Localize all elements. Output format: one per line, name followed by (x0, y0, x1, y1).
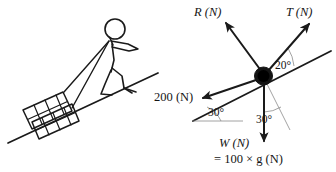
label-200N-text: 200 (N) (154, 90, 193, 104)
label-R: R (N) (194, 5, 221, 20)
scene-left (8, 19, 158, 143)
angle-label-30-incline-text: 30° (208, 106, 224, 118)
label-R-text: R (N) (194, 5, 221, 19)
angle-label-20-text: 20° (275, 59, 291, 71)
label-200N: 200 (N) (154, 90, 193, 105)
angle-label-30-weight-text: 30° (256, 113, 272, 125)
figure-canvas (0, 0, 336, 172)
angle-label-20: 20° (275, 59, 291, 71)
sledge-midline-upper (28, 102, 68, 120)
particle-node-core (258, 70, 270, 82)
label-W-text: W (N) (219, 136, 249, 150)
person-head (105, 19, 125, 39)
stick-figure-person (101, 19, 138, 95)
physics-figure: R (N) T (N) 200 (N) W (N) = 100 × g (N) … (0, 0, 336, 172)
incline-ground-line-left (8, 73, 158, 143)
label-W-expression-text: = 100 × g (N) (214, 152, 283, 166)
rope-strand-upper (64, 41, 109, 92)
angle-label-30-weight: 30° (256, 113, 272, 125)
label-T: T (N) (286, 5, 313, 20)
angle-label-30-incline: 30° (208, 106, 224, 118)
person-back-leg (101, 70, 112, 95)
label-W-expression: = 100 × g (N) (214, 152, 283, 167)
person-arm (111, 41, 138, 51)
vector-R (226, 23, 262, 72)
label-T-text: T (N) (286, 5, 313, 19)
rope (64, 41, 109, 108)
vector-200N (203, 79, 259, 98)
label-W: W (N) (219, 136, 249, 151)
